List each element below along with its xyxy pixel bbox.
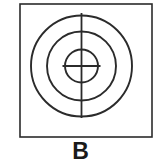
figure-container: B (0, 0, 161, 164)
figure-caption-label: B (0, 139, 161, 164)
